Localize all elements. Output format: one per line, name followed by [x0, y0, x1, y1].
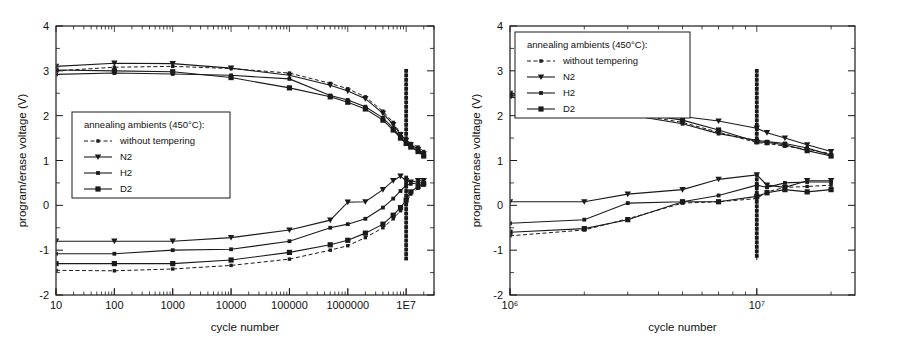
- burst-point: [404, 212, 408, 216]
- figure-root: 1010010001000010000010000001E7-2-101234c…: [0, 0, 910, 348]
- burst-point: [755, 231, 759, 235]
- legend-label: without tempering: [562, 55, 638, 66]
- data-point: [754, 139, 759, 144]
- burst-point: [404, 82, 408, 86]
- data-point: [404, 183, 408, 187]
- data-point: [287, 85, 292, 90]
- legend-label: N2: [563, 71, 575, 82]
- legend-marker: [539, 59, 542, 62]
- data-point: [399, 189, 403, 193]
- data-point: [170, 261, 175, 266]
- x-tick-label: 10: [50, 299, 62, 311]
- burst-point: [404, 69, 408, 73]
- data-point: [415, 149, 420, 154]
- data-point: [421, 181, 426, 186]
- data-point: [805, 189, 810, 194]
- y-tick-label: 1: [497, 155, 503, 167]
- data-point: [364, 236, 367, 239]
- burst-point: [755, 82, 759, 86]
- x-tick-label: 100: [105, 299, 123, 311]
- data-point: [829, 183, 832, 186]
- burst-point: [755, 236, 759, 240]
- legend-marker: [95, 186, 100, 191]
- burst-point: [404, 189, 408, 193]
- y-tick-label: 0: [43, 199, 49, 211]
- x-tick-label: 10000: [216, 299, 247, 311]
- data-point: [345, 88, 351, 94]
- legend-marker: [96, 171, 100, 175]
- series-d2-erase: [507, 187, 833, 235]
- legend-marker: [538, 106, 543, 111]
- y-tick-label: -2: [493, 289, 503, 301]
- data-point: [328, 94, 333, 99]
- burst-point: [404, 73, 408, 77]
- data-point: [805, 148, 810, 153]
- burst-point: [404, 91, 408, 95]
- data-point: [381, 206, 385, 210]
- x-axis-label: cycle number: [648, 321, 717, 333]
- y-tick-label: -2: [39, 289, 49, 301]
- burst-point: [755, 200, 759, 204]
- data-point: [829, 180, 833, 184]
- data-point: [409, 182, 413, 186]
- data-point: [287, 250, 292, 255]
- x-tick-label: 100000: [271, 299, 308, 311]
- burst-point: [755, 91, 759, 95]
- burst-point: [755, 73, 759, 77]
- data-point: [755, 183, 759, 187]
- data-point: [391, 127, 396, 132]
- burst-point: [404, 243, 408, 247]
- data-point: [391, 197, 395, 201]
- burst-point: [404, 123, 408, 127]
- chart-svg: 1010010001000010000010000001E7-2-101234c…: [0, 0, 455, 348]
- data-point: [415, 184, 420, 189]
- data-point: [363, 231, 368, 236]
- data-point: [112, 261, 117, 266]
- data-point: [828, 153, 833, 158]
- data-point: [228, 75, 233, 80]
- data-point: [764, 190, 769, 195]
- y-tick-label: 4: [43, 20, 49, 32]
- chart-svg: 10⁶10⁷-2-101234cycle numberprogram/erase…: [455, 0, 910, 348]
- data-point: [288, 257, 291, 260]
- burst-point: [404, 239, 408, 243]
- legend-label: without tempering: [119, 135, 195, 146]
- burst-point: [755, 100, 759, 104]
- burst-point: [404, 78, 408, 82]
- data-point: [765, 186, 769, 190]
- legend-label: D2: [563, 103, 575, 114]
- data-point: [680, 199, 685, 204]
- data-point: [391, 213, 396, 218]
- data-point: [363, 217, 367, 221]
- burst-point: [755, 105, 759, 109]
- burst-point: [755, 227, 759, 231]
- y-axis-label: program/erase voltage (V): [16, 94, 28, 228]
- burst-point: [755, 109, 759, 113]
- x-tick-label: 1000: [160, 299, 184, 311]
- legend-marker: [96, 139, 99, 142]
- burst-point: [404, 127, 408, 131]
- burst-point: [755, 78, 759, 82]
- burst-point: [755, 222, 759, 226]
- data-point: [626, 201, 630, 205]
- data-point: [171, 248, 175, 252]
- legend: annealing ambients (450°C):without tempe…: [72, 112, 230, 198]
- data-point: [229, 264, 232, 267]
- data-point: [398, 205, 403, 210]
- burst-point: [755, 132, 759, 136]
- data-point: [171, 267, 174, 270]
- data-point: [421, 153, 426, 158]
- burst-point: [755, 96, 759, 100]
- burst-point: [404, 100, 408, 104]
- burst-point: [404, 257, 408, 261]
- data-point: [782, 142, 787, 147]
- data-point: [112, 252, 116, 256]
- burst-point: [404, 118, 408, 122]
- burst-point: [755, 245, 759, 249]
- data-point: [582, 218, 586, 222]
- burst-point: [755, 249, 759, 253]
- legend: annealing ambients (450°C):without tempe…: [515, 32, 690, 118]
- data-point: [783, 181, 787, 185]
- burst-point: [755, 218, 759, 222]
- data-point: [345, 238, 350, 243]
